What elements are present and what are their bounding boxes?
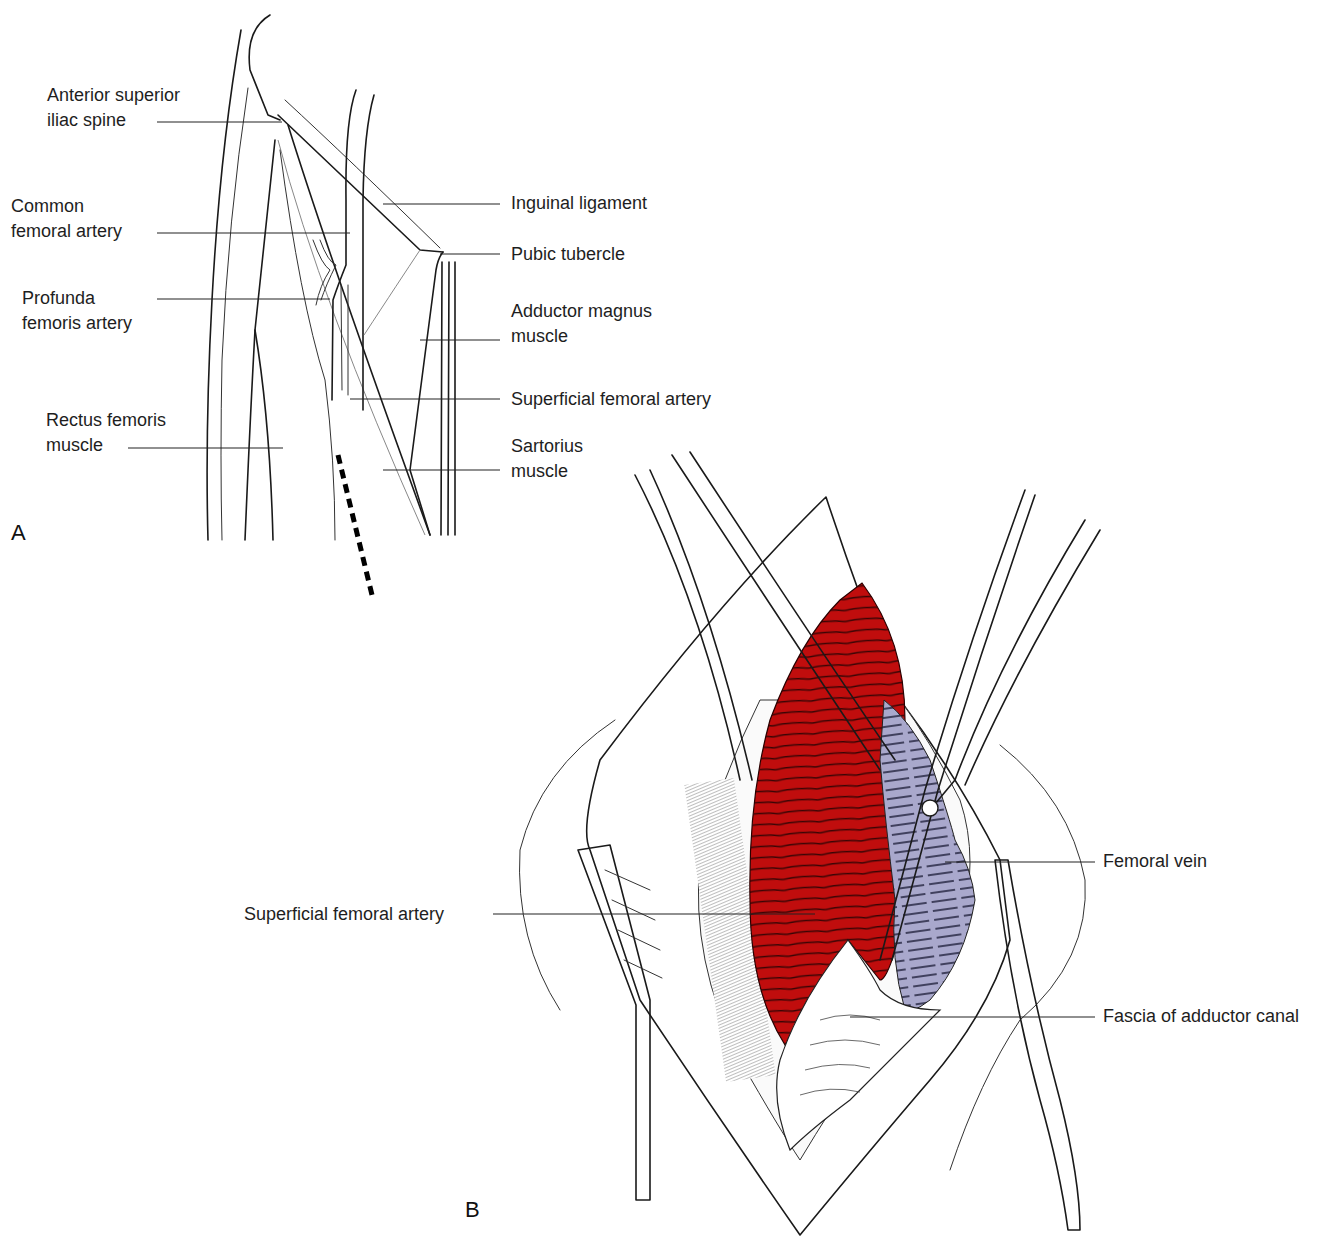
retractor-right [995, 860, 1080, 1230]
skin-contour-left [520, 720, 616, 1010]
label-common-femoral-artery: Common femoral artery [11, 194, 122, 244]
label-line: Rectus femoris [46, 408, 166, 433]
label-pubic-tubercle: Pubic tubercle [511, 242, 625, 267]
label-line: muscle [46, 433, 166, 458]
retractor-left-slats [605, 870, 662, 978]
label-adductor-magnus-muscle: Adductor magnus muscle [511, 299, 652, 349]
label-superficial-femoral-artery-a: Superficial femoral artery [511, 387, 711, 412]
rectus-femoris-medial [255, 330, 273, 540]
label-line: Anterior superior [47, 83, 180, 108]
label-inguinal-ligament: Inguinal ligament [511, 191, 647, 216]
label-line: Fascia of adductor canal [1103, 1004, 1299, 1029]
label-femoral-vein: Femoral vein [1103, 849, 1207, 874]
panel-letter-b: B [465, 1197, 480, 1223]
label-fascia-of-adductor-canal: Fascia of adductor canal [1103, 1004, 1299, 1029]
scissors-blade2 [930, 520, 1100, 810]
label-line: Superficial femoral artery [511, 387, 711, 412]
label-line: Superficial femoral artery [244, 902, 444, 927]
label-line: Sartorius [511, 434, 583, 459]
label-line: femoris artery [22, 311, 132, 336]
panel-a-drawing [128, 15, 500, 595]
label-line: Femoral vein [1103, 849, 1207, 874]
label-profunda-femoris-artery: Profunda femoris artery [22, 286, 132, 336]
scissors-pivot-screw [922, 800, 938, 816]
sartorius-outline [288, 125, 430, 535]
ligament-to-vessel [364, 250, 420, 335]
label-superficial-femoral-artery-b: Superficial femoral artery [244, 902, 444, 927]
femoral-vessel-left [332, 90, 356, 400]
label-line: muscle [511, 459, 583, 484]
label-line: muscle [511, 324, 652, 349]
forceps-left-arm1 [635, 470, 752, 780]
label-sartorius-muscle: Sartorius muscle [511, 434, 583, 484]
thigh-lateral-outline [207, 30, 241, 540]
label-line: iliac spine [47, 108, 180, 133]
sartorius-inner [278, 140, 425, 535]
label-line: Inguinal ligament [511, 191, 647, 216]
label-rectus-femoris-muscle: Rectus femoris muscle [46, 408, 166, 458]
retractor-left [578, 845, 650, 1200]
skin-contour-right [950, 745, 1085, 1170]
label-anterior-superior-iliac-spine: Anterior superior iliac spine [47, 83, 180, 133]
panel-b-drawing [493, 452, 1100, 1235]
label-line: femoral artery [11, 219, 122, 244]
label-line: Common [11, 194, 122, 219]
incision-dashed-line [338, 455, 372, 595]
iliac-crest [249, 15, 280, 120]
label-line: Adductor magnus [511, 299, 652, 324]
inguinal-ligament-line [278, 115, 443, 252]
label-line: Profunda [22, 286, 132, 311]
illustration-canvas [0, 0, 1339, 1248]
panel-letter-a: A [11, 520, 26, 546]
thigh-lateral-inner [221, 88, 248, 540]
adductor-line [280, 150, 335, 540]
label-line: Pubic tubercle [511, 242, 625, 267]
